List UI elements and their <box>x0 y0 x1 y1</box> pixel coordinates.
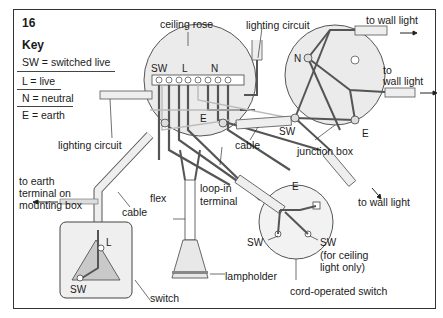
key-item-l: L = live <box>22 75 55 87</box>
junction-box-label: junction box <box>297 145 353 157</box>
switch-label: switch <box>150 292 179 304</box>
wiring-diagram <box>0 0 443 318</box>
lampholder-label: lampholder <box>225 270 277 282</box>
loop-in-label-2: terminal <box>200 195 237 207</box>
rose-terminal-n: N <box>211 63 218 74</box>
cable-center-label: cable <box>235 139 260 151</box>
key-divider <box>17 71 115 72</box>
junction-terminal-n: N <box>294 53 301 64</box>
to-wall-light-mid-label-2: wall light <box>383 75 423 87</box>
lighting-circuit-top-label: lighting circuit <box>246 19 310 31</box>
earth-label-1: to earth <box>19 175 55 187</box>
to-wall-light-bottom-label: to wall light <box>358 196 410 208</box>
junction-terminal-sw: SW <box>279 126 295 137</box>
switch-terminal-l: L <box>106 237 112 248</box>
key-item-e: E = earth <box>22 109 65 121</box>
cord-switch-terminal-e: E <box>292 181 299 192</box>
earth-label-2: terminal on <box>19 187 71 199</box>
key-title: Key <box>22 38 44 52</box>
key-divider <box>17 106 73 107</box>
switch-terminal-sw: SW <box>70 284 86 295</box>
figure-number: 16 <box>22 16 35 30</box>
cable-left-label: cable <box>122 206 147 218</box>
junction-terminal-e: E <box>362 128 369 139</box>
loop-in-label-1: loop-in <box>200 182 232 194</box>
cord-switch-note-2: light only) <box>320 261 365 273</box>
cord-switch-label: cord-operated switch <box>290 285 387 297</box>
cord-switch-terminal-sw-left: SW <box>247 237 263 248</box>
earth-label-3: mounting box <box>19 199 82 211</box>
key-item-sw: SW = switched live <box>22 56 110 68</box>
ceiling-rose-label: ceiling rose <box>160 18 213 30</box>
lighting-circuit-left-label: lighting circuit <box>58 139 122 151</box>
rose-terminal-l: L <box>182 63 188 74</box>
to-wall-light-top-label: to wall light <box>366 14 418 26</box>
key-item-n: N = neutral <box>22 92 74 104</box>
cord-switch-terminal-sw-right: SW <box>320 237 336 248</box>
flex-label: flex <box>150 192 166 204</box>
rose-terminal-e: E <box>200 113 207 124</box>
cord-switch-note-1: (for ceiling <box>320 249 368 261</box>
junction-box-body <box>285 25 385 125</box>
rose-terminal-sw: SW <box>151 63 167 74</box>
key-divider <box>17 89 61 90</box>
